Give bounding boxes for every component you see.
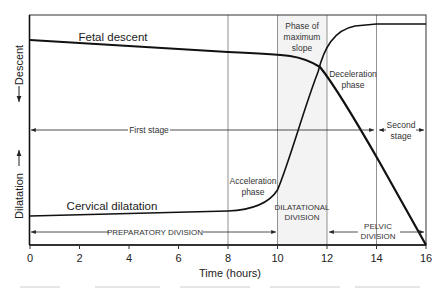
svg-text:PELVIC: PELVIC [364,222,392,231]
second-stage-span: Second stage [379,120,424,141]
svg-text:DILATATIONAL: DILATATIONAL [274,203,330,212]
y-label-dilatation: Dilatation [13,150,25,219]
x-tick-12: 12 [321,252,333,264]
svg-text:maximum: maximum [284,32,321,42]
x-tick-8: 8 [225,252,231,264]
svg-text:Deceleration: Deceleration [329,69,377,79]
x-tick-labels: 0 2 4 6 8 10 12 14 16 [27,252,432,264]
x-tick-16: 16 [420,252,432,264]
first-stage-label: First stage [129,125,169,135]
pelvic-division-span: PELVIC DIVISION [329,222,424,241]
fetal-descent-label: Fetal descent [78,31,148,43]
preparatory-division-label: PREPARATORY DIVISION [107,228,203,237]
labor-curve-chart: 0 2 4 6 8 10 12 14 16 Time (hours) Desce… [0,0,444,290]
x-tick-14: 14 [370,252,382,264]
svg-text:phase: phase [241,187,264,197]
y-label-descent: Descent [13,45,25,102]
svg-text:DIVISION: DIVISION [284,213,319,222]
x-tick-4: 4 [126,252,132,264]
svg-text:Second: Second [387,120,416,130]
x-tick-10: 10 [271,252,283,264]
acceleration-phase-annotation: Acceleration phase [230,176,277,197]
cervical-dilatation-label: Cervical dilatation [67,200,158,212]
y-label-dilatation-text: Dilatation [13,173,25,219]
svg-text:DIVISION: DIVISION [360,232,395,241]
x-tick-0: 0 [27,252,33,264]
y-label-descent-text: Descent [13,45,25,85]
svg-text:stage: stage [391,131,412,141]
svg-text:Acceleration: Acceleration [230,176,277,186]
preparatory-division-span: PREPARATORY DIVISION [31,228,276,237]
x-tick-6: 6 [175,252,181,264]
x-axis-label: Time (hours) [199,267,261,279]
svg-text:slope: slope [292,43,313,53]
x-tick-2: 2 [76,252,82,264]
svg-text:Phase of: Phase of [285,21,319,31]
svg-text:phase: phase [341,80,364,90]
deceleration-phase-annotation: Deceleration phase [329,69,377,90]
